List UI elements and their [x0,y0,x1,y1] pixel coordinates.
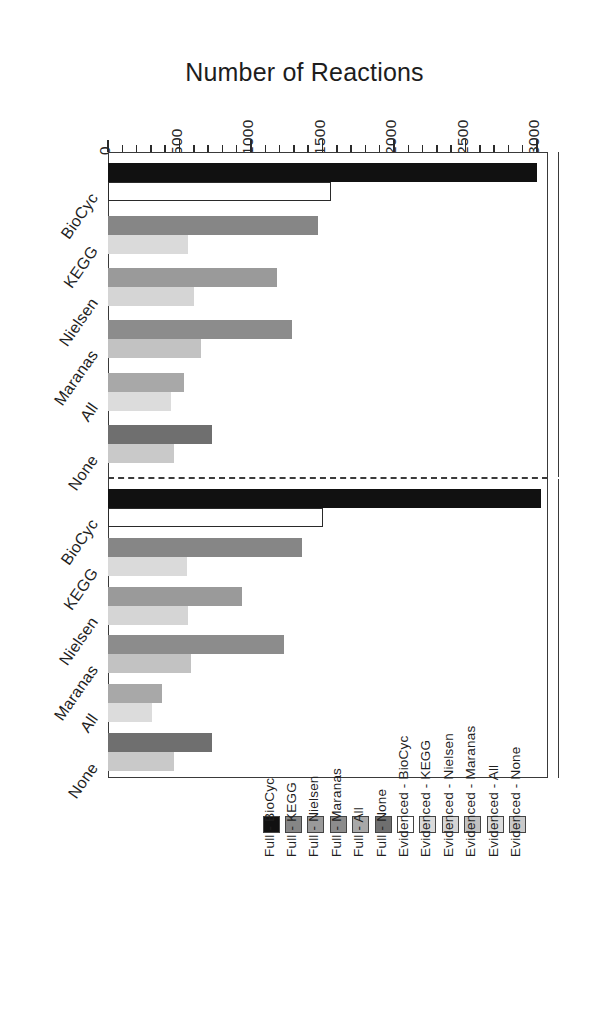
bar-evidenced-all [108,703,152,722]
axis-tick-label: 1000 [239,119,257,155]
bar-full-nielsen [108,587,242,606]
axis-tick-minor [136,145,138,152]
bar-full-biocyc [108,489,541,508]
axis-tick-label: 3000 [525,119,543,155]
axis-tick-minor [365,145,367,152]
axis-tick-minor [122,145,124,152]
axis-tick-label: 2500 [454,119,472,155]
category-label-none: None [65,452,102,494]
category-label-nielsen: Nielsen [56,613,102,668]
bar-evidenced-all [108,392,171,411]
axis-tick-minor [222,145,224,152]
axis-tick-minor [236,145,238,152]
legend-label: Full - All [351,807,366,857]
category-label-biocyc: BioCyc [57,190,102,243]
bar-evidenced-biocyc [108,508,323,527]
axis-tick-minor [164,145,166,152]
bar-evidenced-none [108,752,174,771]
axis-tick-minor [422,145,424,152]
bar-full-kegg [108,216,318,235]
panel-strip-maize [558,479,559,778]
axis-tick-minor [207,145,209,152]
bar-evidenced-nielsen [108,287,194,306]
bar-full-biocyc [108,163,537,182]
category-label-kegg: KEGG [60,242,102,291]
bar-evidenced-maranas [108,339,201,358]
bar-full-kegg [108,538,302,557]
legend-label: Evidenced - None [508,746,523,857]
axis-tick-minor [379,145,381,152]
axis-tick-minor [150,145,152,152]
bar-full-all [108,373,184,392]
legend-label: Evidenced - BioCyc [396,736,411,857]
axis-title: Number of Reactions [0,58,609,87]
axis-tick-minor [265,145,267,152]
bar-full-none [108,733,212,752]
legend-label: Full - Maranas [329,768,344,857]
category-label-nielsen: Nielsen [56,295,102,350]
axis-tick-label: 1500 [311,119,329,155]
panel-separator [108,477,548,479]
bar-evidenced-kegg [108,557,187,576]
axis-tick-minor [479,145,481,152]
category-label-kegg: KEGG [60,565,102,614]
category-label-biocyc: BioCyc [57,516,102,569]
chart-figure: Number of Reactions 05001000150020002500… [0,0,609,1025]
axis-tick-minor [336,145,338,152]
legend-label: Evidenced - Maranas [463,726,478,857]
bar-evidenced-kegg [108,235,188,254]
bar-evidenced-nielsen [108,606,188,625]
bar-full-all [108,684,162,703]
category-label-all: All [77,711,102,736]
category-label-none: None [65,759,102,801]
category-label-maranas: Maranas [51,347,102,409]
axis-tick-minor [293,145,295,152]
legend-label: Evidenced - All [486,765,501,857]
bar-full-none [108,425,212,444]
axis-tick-label: 500 [168,128,186,155]
legend-label: Full - KEGG [284,782,299,857]
axis-tick-label: 2000 [382,119,400,155]
axis-tick-minor [436,145,438,152]
bar-full-nielsen [108,268,277,287]
legend-label: Full - BioCyc [262,778,277,857]
axis-tick-minor [522,145,524,152]
category-label-all: All [77,399,102,424]
axis-tick-minor [508,145,510,152]
bar-evidenced-biocyc [108,182,331,201]
bar-evidenced-none [108,444,174,463]
legend-label: Evidenced - KEGG [418,740,433,857]
bar-evidenced-maranas [108,654,191,673]
bar-full-maranas [108,320,292,339]
axis-tick-minor [350,145,352,152]
legend-label: Full - Nielsen [306,775,321,857]
axis-tick-minor [493,145,495,152]
legend-label: Full - None [374,789,389,857]
axis-tick-minor [193,145,195,152]
panel-strip-arabidopsis [558,152,559,477]
axis-tick-minor [307,145,309,152]
legend-label: Evidenced - Nielsen [441,733,456,857]
axis-tick-minor [279,145,281,152]
axis-tick-minor [408,145,410,152]
bar-full-maranas [108,635,284,654]
axis-tick-minor [450,145,452,152]
